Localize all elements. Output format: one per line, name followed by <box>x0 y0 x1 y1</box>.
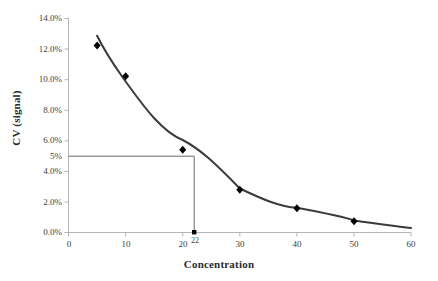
data-point-markers <box>94 42 358 226</box>
x-axis-title: Concentration <box>0 258 438 270</box>
data-point-marker <box>351 217 358 225</box>
threshold-intersection-marker <box>192 230 196 234</box>
data-point-marker <box>94 42 101 50</box>
data-point-marker <box>179 146 186 154</box>
x-tick-label-50: 50 <box>339 240 369 249</box>
x-tick-label-10: 10 <box>111 240 141 249</box>
y-tick-label-8: 8.0% <box>22 106 62 115</box>
y-tick-label-14: 14.0% <box>22 14 62 23</box>
threshold-concentration-22-label: 22 <box>191 237 199 245</box>
x-tick-label-0: 0 <box>54 240 84 249</box>
x-axis-ticks <box>69 233 412 237</box>
y-tick-label-0: 0.0% <box>22 228 62 237</box>
y-tick-label-4: 4.0% <box>22 167 62 176</box>
data-point-marker <box>293 204 300 212</box>
plot-area-svg <box>0 0 438 281</box>
y-axis-ticks <box>65 19 69 233</box>
x-tick-label-60: 60 <box>396 240 426 249</box>
y-tick-label-12: 12.0% <box>22 45 62 54</box>
threshold-5-percent-label: 5% <box>22 152 62 161</box>
fitted-trend-curve <box>97 36 411 228</box>
y-tick-label-6: 6.0% <box>22 136 62 145</box>
x-tick-label-40: 40 <box>282 240 312 249</box>
y-tick-label-10: 10.0% <box>22 75 62 84</box>
x-tick-label-30: 30 <box>225 240 255 249</box>
y-axis-title: CV (signal) <box>10 63 22 173</box>
y-tick-label-2: 2.0% <box>22 198 62 207</box>
cv-vs-concentration-chart: 14.0% 12.0% 10.0% 8.0% 6.0% 5% 4.0% 2.0%… <box>0 0 438 281</box>
